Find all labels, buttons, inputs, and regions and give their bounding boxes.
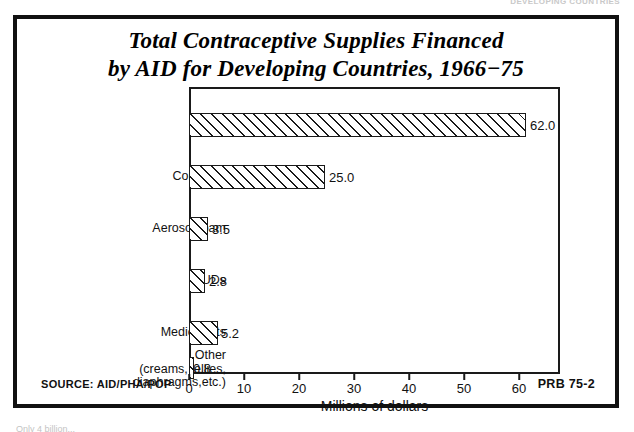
bar-aerosol-foam — [189, 217, 208, 241]
x-tick-30 — [353, 374, 355, 380]
bar-row-condoms: Condoms 25.0 — [17, 165, 615, 189]
page-running-head: DEVELOPING COUNTRIES — [510, 0, 620, 5]
bar-value-condoms: 25.0 — [329, 170, 354, 185]
x-axis-title: Millions of dollars — [189, 398, 560, 414]
bar-value-medical-kits: 5.2 — [221, 326, 239, 341]
bar-condoms — [189, 165, 325, 189]
x-axis: 0 10 20 30 40 50 60 Millions of dollars — [189, 374, 560, 414]
x-tick-0 — [188, 374, 190, 380]
x-tick-60 — [518, 374, 520, 380]
x-tick-label-0: 0 — [185, 381, 192, 396]
source-note: SOURCE: AID/PHA/POP — [41, 378, 172, 390]
bar-row-pills: Pills 62.0 — [17, 113, 615, 137]
figure-title-line-2: by AID for Developing Countries, 1966−75 — [17, 55, 615, 83]
bar-medical-kits — [189, 321, 218, 345]
bar-pills — [189, 113, 526, 137]
figure-container: Total Contraceptive Supplies Financed by… — [13, 15, 619, 408]
bar-iuds — [189, 269, 205, 293]
bar-value-pills: 62.0 — [530, 118, 555, 133]
x-tick-label-50: 50 — [457, 381, 471, 396]
x-tick-label-60: 60 — [512, 381, 526, 396]
bar-rows: Pills 62.0 Condoms 25.0 Aerosol foam 3.5… — [17, 87, 615, 374]
bar-row-aerosol-foam: Aerosol foam 3.5 — [17, 217, 615, 241]
x-tick-20 — [298, 374, 300, 380]
bar-value-iuds: 2.8 — [209, 274, 227, 289]
x-tick-50 — [463, 374, 465, 380]
bar-row-medical-kits: Medical kits 5.2 — [17, 321, 615, 345]
bar-row-iuds: IUDs 2.8 — [17, 269, 615, 293]
x-tick-label-20: 20 — [292, 381, 306, 396]
page-bottom-cutoff-text: Only 4 billion... — [16, 424, 75, 432]
x-tick-label-40: 40 — [402, 381, 416, 396]
x-tick-40 — [408, 374, 410, 380]
x-tick-label-30: 30 — [347, 381, 361, 396]
figure-title-line-1: Total Contraceptive Supplies Financed — [128, 28, 503, 53]
figure-title: Total Contraceptive Supplies Financed by… — [17, 27, 615, 83]
prb-number: PRB 75-2 — [538, 377, 595, 391]
x-tick-label-10: 10 — [237, 381, 251, 396]
x-tick-10 — [243, 374, 245, 380]
bar-value-aerosol-foam: 3.5 — [212, 222, 230, 237]
